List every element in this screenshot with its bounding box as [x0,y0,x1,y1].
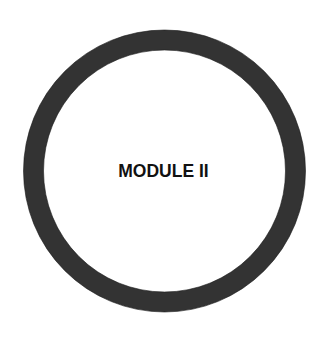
module-label: MODULE II [0,161,327,181]
diagram-canvas: MODULE II [0,0,329,343]
